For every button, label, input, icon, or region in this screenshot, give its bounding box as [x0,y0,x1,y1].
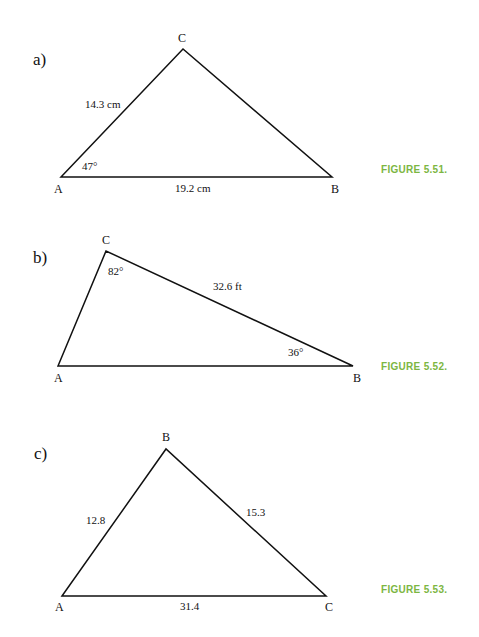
side-ab-length: 19.2 cm [175,182,210,194]
part-label-a: a) [33,50,46,70]
figure-caption-a: FIGURE 5.51. [381,164,447,175]
figure-caption-c: FIGURE 5.53. [381,584,447,595]
angle-a: 47° [82,160,97,172]
vertex-a: A [54,371,63,386]
figure-caption-b: FIGURE 5.52. [381,361,447,372]
angle-c: 82° [108,265,123,277]
vertex-c: C [325,600,333,615]
side-ab-length: 12.8 [86,514,105,526]
figure-c: c) B A C 12.8 15.3 31.4 FIGURE 5.53. [0,410,479,637]
figure-b: b) C A B 32.6 ft 82° 36° FIGURE 5.52. [0,220,479,400]
vertex-a: A [55,600,64,615]
triangle-a-drawing [0,0,479,210]
triangle-c-drawing [0,410,479,637]
part-label-b: b) [33,248,47,268]
triangle-b-drawing [0,220,479,400]
vertex-c: C [178,31,186,46]
vertex-b: B [353,371,361,386]
side-ac-length: 31.4 [180,600,199,612]
vertex-c: C [102,233,110,248]
vertex-b: B [331,182,339,197]
vertex-b: B [162,430,170,445]
figure-a: a) C A B 14.3 cm 19.2 cm 47° FIGURE 5.51… [0,0,479,210]
angle-b: 36° [288,346,303,358]
part-label-c: c) [34,444,47,464]
vertex-a: A [54,182,63,197]
side-cb-length: 32.6 ft [213,280,242,292]
side-ac-length: 14.3 cm [85,98,120,110]
side-bc-length: 15.3 [246,506,265,518]
